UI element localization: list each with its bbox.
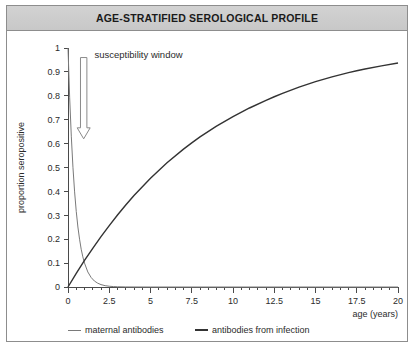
y-tick-label: 0.8: [47, 91, 60, 101]
down-arrow-icon: [77, 58, 90, 139]
y-tick-label: 0.9: [47, 67, 60, 77]
series-maternal-antibodies: [68, 48, 398, 287]
x-tick-label: 2.5: [103, 296, 116, 306]
x-tick-label: 10: [228, 296, 238, 306]
axis-lines: [68, 48, 398, 287]
legend-label: antibodies from infection: [212, 325, 310, 335]
y-tick-label: 0: [55, 282, 60, 292]
y-tick-label: 0.1: [47, 258, 60, 268]
y-tick-label: 0.4: [47, 187, 60, 197]
x-tick-label: 20: [393, 296, 403, 306]
y-tick-label: 0.6: [47, 139, 60, 149]
y-tick-label: 1: [55, 43, 60, 53]
y-axis-label: proportion seropositive: [16, 122, 26, 213]
serology-line-chart: 00.10.20.30.40.50.60.70.80.9102.557.5101…: [0, 0, 420, 348]
x-tick-label: 12.5: [265, 296, 283, 306]
susceptibility-window-label: susceptibility window: [94, 49, 182, 60]
y-tick-label: 0.5: [47, 163, 60, 173]
chart-area: 00.10.20.30.40.50.60.70.80.9102.557.5101…: [0, 0, 420, 348]
x-tick-label: 5: [148, 296, 153, 306]
screenshot-root: AGE-STRATIFIED SEROLOGICAL PROFILE 00.10…: [0, 0, 420, 348]
x-axis-label: age (years): [352, 309, 398, 319]
x-tick-label: 15: [310, 296, 320, 306]
x-tick-label: 0: [65, 296, 70, 306]
x-tick-label: 7.5: [185, 296, 198, 306]
x-tick-label: 17.5: [348, 296, 366, 306]
legend-label: maternal antibodies: [85, 325, 164, 335]
y-tick-label: 0.3: [47, 211, 60, 221]
y-tick-label: 0.7: [47, 115, 60, 125]
y-tick-label: 0.2: [47, 234, 60, 244]
series-antibodies-from-infection: [68, 63, 398, 287]
